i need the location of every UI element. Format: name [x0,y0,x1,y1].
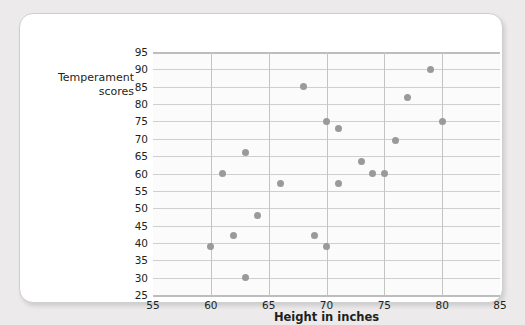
data-point [335,180,342,187]
data-point [392,137,399,144]
y-axis-tick-label: 95 [135,47,148,58]
data-point [242,274,249,281]
y-axis-tick-label: 40 [135,238,148,249]
data-point [242,149,249,156]
y-axis-tick-label: 85 [135,81,148,92]
data-point [369,170,376,177]
y-axis-title-line-2: scores [38,85,134,99]
gridline-vertical [327,52,328,295]
x-axis-tick-label: 60 [204,300,217,311]
gridline-vertical [211,52,212,295]
data-point [300,83,307,90]
data-point [358,158,365,165]
y-axis-tick-label: 45 [135,220,148,231]
y-axis-tick-label: 75 [135,116,148,127]
data-point [335,125,342,132]
data-point [207,243,214,250]
data-point [254,212,261,219]
data-point [323,118,330,125]
x-axis-title: Height in inches [153,310,500,324]
y-axis-title: Temperament scores [38,71,134,99]
data-point [311,232,318,239]
y-axis-title-line-1: Temperament [38,71,134,85]
y-axis-tick-label: 90 [135,64,148,75]
x-axis-tick-label: 65 [262,300,275,311]
gridline-vertical [269,52,270,295]
data-point [230,232,237,239]
data-point [404,94,411,101]
y-axis-tick-label: 55 [135,186,148,197]
data-point [439,118,446,125]
y-axis-tick-label: 60 [135,168,148,179]
x-axis-tick-label: 55 [146,300,159,311]
plot-area: 253035404550556065707580859095 556065707… [153,52,500,295]
x-axis-tick-label: 85 [493,300,506,311]
y-axis-tick-label: 70 [135,134,148,145]
data-point [381,170,388,177]
y-axis-tick-label: 30 [135,272,148,283]
data-point [323,243,330,250]
x-axis-tick-label: 80 [435,300,448,311]
x-axis-tick-label: 70 [320,300,333,311]
x-axis-tick-label: 75 [378,300,391,311]
y-axis-tick-label: 80 [135,99,148,110]
figure-card: Temperament scores 253035404550556065707… [19,13,503,303]
y-axis-tick-label: 65 [135,151,148,162]
gridline-vertical [442,52,443,295]
gridline-horizontal [153,295,500,297]
y-axis-tick-label: 50 [135,203,148,214]
data-point [219,170,226,177]
data-point [427,66,434,73]
data-point [277,180,284,187]
y-axis-tick-label: 35 [135,255,148,266]
scatter-plot-figure: Temperament scores 253035404550556065707… [0,0,525,325]
